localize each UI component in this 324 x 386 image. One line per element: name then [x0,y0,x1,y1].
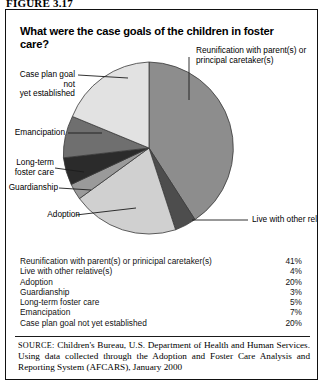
callout-guardianship: Guardianship [8,183,58,193]
figure-number: FIGURE 3.17 [6,0,73,9]
table-row-value: 41% [280,256,302,266]
callout-case-plan-not-established: Case plan goal not yet established [7,70,75,99]
pie-slices [63,62,233,234]
table-row-label: Case plan goal not yet established [20,318,147,328]
table-row: Adoption 20% [20,277,302,287]
table-row: Case plan goal not yet established 20% [20,318,302,328]
table-row-label: Guardianship [20,287,69,297]
table-row: Guardianship 3% [20,287,302,297]
table-row-label: Long-term foster care [20,297,99,307]
table-row-label: Live with other relative(s) [20,266,112,276]
table-row: Long-term foster care 5% [20,297,302,307]
table-row-label: Emancipation [20,307,70,317]
callout-emancipation: Emancipation [7,128,65,138]
callout-adoption: Adoption [32,210,80,220]
figure-frame: What were the case goals of the children… [5,9,318,380]
callout-live-with-other-relatives: Live with other relative(s) [252,215,318,225]
source-prefix: SOURCE: [18,341,55,350]
table-row: Emancipation 7% [20,307,302,317]
table-row-value: 5% [280,297,302,307]
table-row: Reunification with parent(s) or prinicip… [20,256,302,266]
data-table: Reunification with parent(s) or prinicip… [20,256,302,328]
table-row-value: 20% [280,277,302,287]
table-row-value: 20% [280,318,302,328]
table-row-value: 4% [280,266,302,276]
source-divider [15,336,310,337]
table-row: Live with other relative(s) 4% [20,266,302,276]
table-row-label: Reunification with parent(s) or prinicip… [20,256,212,266]
source-text: Children's Bureau, U.S. Department of He… [18,340,310,372]
table-row-value: 3% [280,287,302,297]
table-row-label: Adoption [20,277,53,287]
callout-reunification: Reunification with parent(s) or principa… [196,46,314,65]
table-row-value: 7% [280,307,302,317]
callout-long-term-foster-care: Long-term foster care [6,158,54,177]
source-note: SOURCE: Children's Bureau, U.S. Departme… [18,340,310,374]
